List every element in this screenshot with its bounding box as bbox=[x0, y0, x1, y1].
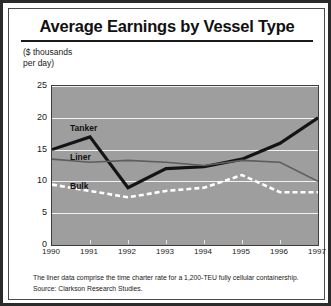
series-lines bbox=[52, 86, 318, 245]
x-axis-tick: 1997 bbox=[308, 247, 326, 256]
y-axis-tick: 15 bbox=[19, 144, 47, 154]
y-axis-caption: ($ thousands per day) bbox=[23, 47, 72, 68]
series-line-liner bbox=[52, 159, 318, 181]
series-label-bulk: Bulk bbox=[70, 181, 88, 191]
x-axis-tickmark bbox=[242, 240, 243, 244]
chart-inner-frame: Average Earnings by Vessel Type ($ thous… bbox=[8, 8, 325, 300]
series-label-tanker: Tanker bbox=[70, 123, 97, 133]
x-axis-tickmark bbox=[166, 240, 167, 244]
title-divider bbox=[21, 40, 313, 42]
x-axis-tickmark bbox=[90, 240, 91, 244]
y-axis-tick: 10 bbox=[19, 175, 47, 185]
y-axis-tick: 25 bbox=[19, 80, 47, 90]
x-axis-tick: 1994 bbox=[194, 247, 212, 256]
series-label-liner: Liner bbox=[70, 152, 91, 162]
x-axis-tick: 1991 bbox=[80, 247, 98, 256]
page-title: Average Earnings by Vessel Type bbox=[23, 17, 311, 36]
y-axis-tick-labels: 0510152025 bbox=[17, 85, 47, 244]
y-axis-tick: 5 bbox=[19, 207, 47, 217]
x-axis-tick: 1990 bbox=[42, 247, 60, 256]
footnote-source: Source: Clarkson Research Studies. bbox=[33, 285, 143, 292]
x-axis-tickmark bbox=[280, 240, 281, 244]
x-axis-tickmark bbox=[204, 240, 205, 244]
x-axis-tick: 1992 bbox=[118, 247, 136, 256]
x-axis-tick-labels: 19901991199219931994199519961997 bbox=[51, 247, 319, 259]
footnote-note: The liner data comprise the time charter… bbox=[33, 274, 299, 281]
chart-figure: Average Earnings by Vessel Type ($ thous… bbox=[0, 0, 331, 306]
x-axis-tick: 1993 bbox=[156, 247, 174, 256]
series-line-bulk bbox=[52, 175, 318, 197]
y-axis-tick: 20 bbox=[19, 112, 47, 122]
x-axis-tickmark bbox=[128, 240, 129, 244]
x-axis-tick: 1996 bbox=[270, 247, 288, 256]
x-axis-tick: 1995 bbox=[232, 247, 250, 256]
plot-area: Tanker Liner Bulk bbox=[51, 85, 319, 246]
